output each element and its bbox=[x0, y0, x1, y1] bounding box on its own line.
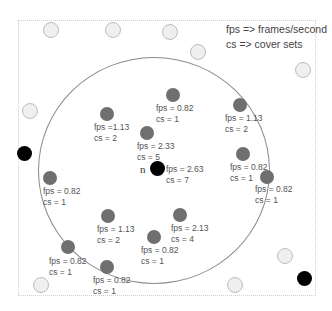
sensor-stats: fps = 0.82cs = 1 bbox=[93, 275, 131, 297]
sensor-node bbox=[43, 171, 57, 185]
sensor-stats: fps = 2.13cs = 4 bbox=[171, 223, 209, 245]
sensor-stats: fps = 1.13cs = 2 bbox=[97, 224, 135, 246]
inactive-node bbox=[22, 103, 38, 119]
black-node bbox=[17, 146, 32, 161]
sensor-stats: fps = 0.82cs = 1 bbox=[156, 103, 194, 125]
focus-node-label: n bbox=[140, 163, 146, 175]
sensor-stats: fps = 1.13cs = 2 bbox=[225, 113, 263, 135]
inactive-node bbox=[162, 24, 178, 40]
inactive-node bbox=[43, 22, 59, 38]
sensor-node bbox=[233, 98, 247, 112]
inactive-node bbox=[227, 277, 243, 293]
focus-node-stats: fps = 2.63 cs = 7 bbox=[166, 164, 204, 186]
sensor-node bbox=[260, 170, 274, 184]
sensor-stats: fps = 0.82cs = 1 bbox=[255, 184, 293, 206]
sensor-node bbox=[173, 208, 187, 222]
inactive-node bbox=[33, 277, 49, 293]
sensor-stats: fps = 0.82cs = 1 bbox=[49, 256, 87, 278]
sensor-node bbox=[61, 240, 75, 254]
inactive-node bbox=[277, 248, 293, 264]
sensor-stats: fps =1.13cs = 2 bbox=[94, 122, 129, 144]
legend-cs: cs => cover sets bbox=[226, 37, 327, 52]
inactive-node bbox=[105, 22, 121, 38]
inactive-node bbox=[190, 44, 206, 60]
sensor-node bbox=[100, 260, 114, 274]
legend: fps => frames/second cs => cover sets bbox=[226, 22, 327, 52]
sensor-node bbox=[100, 107, 114, 121]
sensor-stats: fps = 0.82cs = 1 bbox=[43, 186, 81, 208]
sensor-stats: fps = 0.82cs = 1 bbox=[141, 245, 179, 267]
focus-node bbox=[150, 161, 165, 176]
sensor-node bbox=[101, 209, 115, 223]
black-node bbox=[297, 271, 312, 286]
sensor-stats: fps = 2.33cs = 5 bbox=[137, 141, 175, 163]
sensor-node bbox=[236, 147, 250, 161]
sensor-node bbox=[147, 230, 161, 244]
sensor-node bbox=[140, 126, 154, 140]
legend-fps: fps => frames/second bbox=[226, 22, 327, 37]
sensor-coverage-diagram: fps => frames/second cs => cover sets n … bbox=[0, 0, 332, 311]
inactive-node bbox=[295, 62, 311, 78]
sensor-node bbox=[166, 88, 180, 102]
